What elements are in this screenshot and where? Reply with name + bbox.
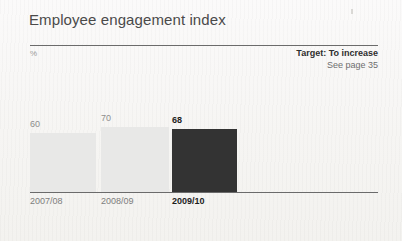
bar-value-label: 70 xyxy=(101,113,111,123)
axis-baseline xyxy=(30,192,378,193)
category-label: 2009/10 xyxy=(172,196,205,206)
bar-2007-08 xyxy=(30,133,96,192)
bar-value-label: 68 xyxy=(172,115,182,125)
figure-page: Employee engagement index % Target: To i… xyxy=(0,0,402,241)
category-label: 2007/08 xyxy=(30,196,63,206)
bar-chart: 607068 2007/082008/092009/10 xyxy=(0,0,402,241)
bar-2008-09 xyxy=(101,127,169,192)
bar-value-label: 60 xyxy=(30,119,40,129)
category-label: 2008/09 xyxy=(101,196,134,206)
bar-2009-10 xyxy=(172,129,237,192)
